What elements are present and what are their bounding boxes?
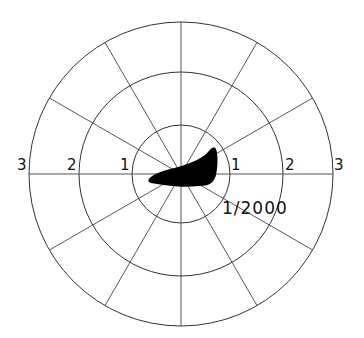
right-label-3: 3 — [334, 158, 344, 173]
left-label-3: 3 — [17, 158, 27, 173]
scale-annotation: 1/2000 — [222, 200, 288, 217]
data-shape — [148, 148, 217, 187]
polar-diagram — [0, 0, 364, 338]
left-label-1: 1 — [120, 158, 130, 173]
left-label-2: 2 — [67, 158, 77, 173]
right-label-1: 1 — [231, 158, 241, 173]
right-label-2: 2 — [285, 158, 295, 173]
